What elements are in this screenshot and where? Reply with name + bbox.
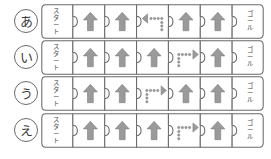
svg-text:ト: ト (53, 27, 59, 35)
row-label-row-u: う (14, 81, 38, 105)
puzzle-strip: スタートゴール (41, 76, 264, 111)
svg-text:ト: ト (53, 63, 59, 71)
row-label-row-e: え (14, 118, 38, 142)
svg-text:ル: ル (247, 96, 254, 104)
svg-text:ト: ト (53, 136, 59, 144)
puzzle-strip: スタートゴール (41, 40, 264, 75)
svg-text:ル: ル (247, 60, 254, 68)
svg-text:ト: ト (53, 99, 59, 107)
puzzle-strip: スタートゴール (41, 4, 264, 39)
svg-text:ル: ル (247, 24, 254, 32)
puzzle-row: いスタートゴール (0, 39, 271, 75)
row-label-row-i: い (14, 45, 38, 69)
puzzle-row: うスタートゴール (0, 75, 271, 111)
puzzle-row: あスタートゴール (0, 3, 271, 39)
svg-text:ル: ル (247, 133, 254, 141)
row-label-row-a: あ (14, 9, 38, 33)
puzzle-strip: スタートゴール (41, 113, 264, 148)
arrow-puzzle-sheet: あスタートゴールいスタートゴールうスタートゴールえスタートゴール (0, 0, 271, 159)
puzzle-row: えスタートゴール (0, 112, 271, 148)
